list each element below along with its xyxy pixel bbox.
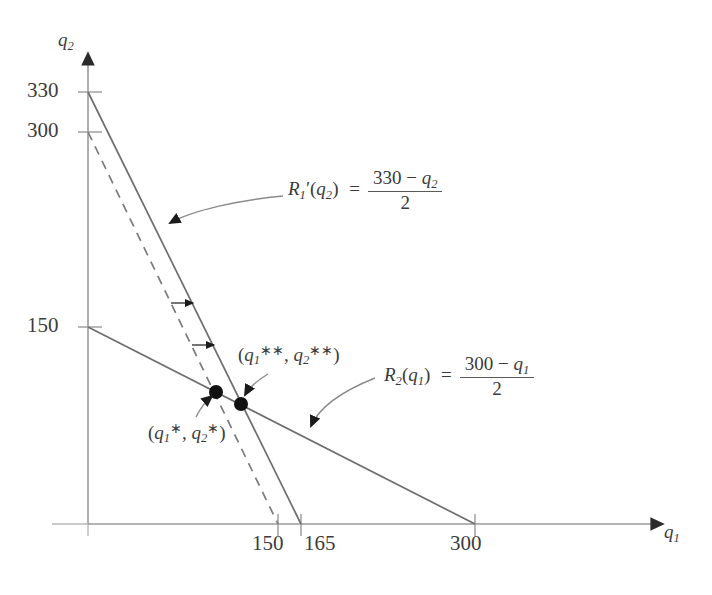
annotation-leader-single-star <box>196 396 212 417</box>
y-tick-marks <box>78 92 102 327</box>
series-r1-dashed-line <box>88 132 278 524</box>
formula-r1-prime-num-b-sub: 2 <box>431 177 437 191</box>
label-equilibrium-single-star: (q1∗, q2∗) <box>148 422 226 445</box>
formula-r1-prime-paren-close: ) <box>332 178 338 199</box>
formula-r1-prime-fn: R <box>288 178 300 199</box>
x-tick-label-300: 300 <box>450 533 482 554</box>
x-axis-label: q1 <box>664 522 680 544</box>
formula-r2-arg: q <box>408 364 418 385</box>
formula-r2-num-b: q <box>513 353 523 374</box>
formula-r2-equals: = <box>441 364 452 385</box>
label-double-star-close: ) <box>333 344 339 365</box>
label-single-star-v2: q <box>192 422 202 443</box>
formula-r1-prime-arg: q <box>316 178 326 199</box>
y-tick-label-300: 300 <box>27 120 59 141</box>
formula-r2-num-b-sub: 1 <box>523 363 529 377</box>
x-axis-label-sub: 1 <box>674 531 680 545</box>
label-single-star-comma: , <box>182 422 187 443</box>
formula-r2-num-minus: − <box>498 353 509 374</box>
y-axis-label: q2 <box>58 30 74 52</box>
formula-r1-prime-fraction: 330 − q2 2 <box>368 168 442 212</box>
equilibrium-point-double-star <box>234 397 248 411</box>
label-double-star-v2-sup: ∗∗ <box>309 343 333 358</box>
x-tick-label-165: 165 <box>304 533 336 554</box>
formula-r1-prime-denominator: 2 <box>368 192 442 212</box>
cournot-reaction-functions-figure: q2 q1 330 300 150 150 165 300 R1′(q2) = … <box>0 0 712 595</box>
y-axis-label-text: q <box>58 29 68 50</box>
formula-r2-fraction: 300 − q1 2 <box>460 354 534 398</box>
label-double-star-v2: q <box>294 344 304 365</box>
formula-r2-num-a: 300 <box>465 353 494 374</box>
formula-r1-prime-equals: = <box>349 178 360 199</box>
label-double-star-comma: , <box>284 344 289 365</box>
y-tick-label-330: 330 <box>27 80 59 101</box>
formula-r2-numerator: 300 − q1 <box>460 354 534 378</box>
label-single-star-v1: q <box>154 422 164 443</box>
formula-r1-prime-num-a: 330 <box>373 167 402 188</box>
label-single-star-v2-sup: ∗ <box>207 421 219 436</box>
annotation-leader-double-star <box>245 374 268 395</box>
annotation-leader-r1-prime <box>170 196 283 223</box>
formula-r1-prime-num-b: q <box>422 167 432 188</box>
formula-r2-denominator: 2 <box>460 378 534 398</box>
formula-r2: R2(q1) = 300 − q1 2 <box>384 354 536 398</box>
series-r1-prime-line <box>88 92 301 524</box>
plot-canvas <box>0 0 712 595</box>
label-double-star-v1: q <box>244 344 254 365</box>
y-tick-label-150: 150 <box>27 315 59 336</box>
annotation-leader-r2 <box>311 378 375 426</box>
formula-r2-paren-close: ) <box>424 364 430 385</box>
y-axis-label-sub: 2 <box>68 39 74 53</box>
label-single-star-close: ) <box>219 422 225 443</box>
label-double-star-v1-sup: ∗∗ <box>260 343 284 358</box>
formula-r1-prime: R1′(q2) = 330 − q2 2 <box>288 168 444 212</box>
label-single-star-v1-sup: ∗ <box>170 421 182 436</box>
x-tick-label-150: 150 <box>252 533 284 554</box>
formula-r1-prime-num-minus: − <box>406 167 417 188</box>
label-equilibrium-double-star: (q1∗∗, q2∗∗) <box>238 344 340 367</box>
x-axis-label-text: q <box>664 521 674 542</box>
formula-r2-fn: R <box>384 364 396 385</box>
formula-r1-prime-numerator: 330 − q2 <box>368 168 442 192</box>
shift-arrows <box>171 303 214 345</box>
